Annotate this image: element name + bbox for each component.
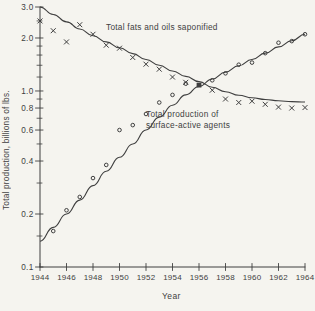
y-axis-label: Total production, billions of lbs. (0, 62, 13, 238)
svg-text:1960: 1960 (243, 273, 262, 282)
svg-text:3.0: 3.0 (21, 3, 33, 12)
chart-figure: 3.02.01.00.80.60.40.20.11944194619481950… (0, 0, 315, 311)
svg-text:0.8: 0.8 (21, 104, 33, 113)
svg-text:0.6: 0.6 (21, 126, 33, 135)
svg-text:1946: 1946 (57, 273, 76, 282)
plot-area: 3.02.01.00.80.60.40.20.11944194619481950… (0, 0, 315, 311)
svg-text:2.0: 2.0 (21, 34, 33, 43)
svg-text:0.2: 0.2 (21, 210, 33, 219)
svg-text:1944: 1944 (31, 273, 50, 282)
svg-text:1962: 1962 (269, 273, 288, 282)
surface-active-series-label: Total production of surface-active agent… (146, 109, 230, 131)
svg-text:1948: 1948 (84, 273, 103, 282)
svg-text:0.1: 0.1 (21, 263, 33, 272)
svg-text:1950: 1950 (110, 273, 129, 282)
svg-text:1956: 1956 (190, 273, 209, 282)
x-axis-label: Year (162, 291, 181, 301)
fats-oils-series-label: Total fats and oils saponified (106, 22, 218, 32)
svg-text:1.0: 1.0 (21, 87, 33, 96)
svg-text:1954: 1954 (163, 273, 182, 282)
svg-text:1958: 1958 (216, 273, 235, 282)
svg-text:1952: 1952 (137, 273, 156, 282)
svg-text:0.4: 0.4 (21, 157, 33, 166)
svg-text:1964: 1964 (296, 273, 315, 282)
